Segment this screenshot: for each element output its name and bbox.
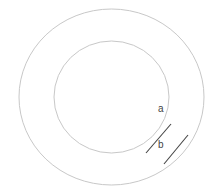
label-b: b xyxy=(158,139,164,150)
inner-circle xyxy=(54,41,169,153)
ring-diagram: a b xyxy=(0,0,217,195)
label-a: a xyxy=(158,103,164,114)
outer-circle xyxy=(19,9,204,185)
